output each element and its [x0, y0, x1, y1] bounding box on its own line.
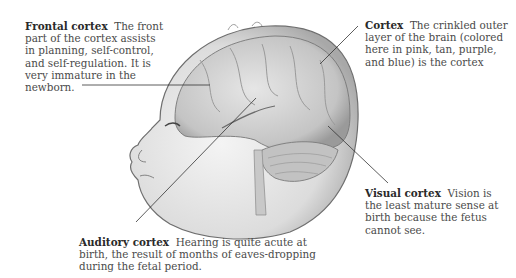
cortex-label: Cortex The crinkled outer layer of the b…	[365, 19, 515, 68]
auditory-cortex-title: Auditory cortex	[79, 236, 169, 248]
visual-cortex-label: Visual cortex Vision is the least mature…	[365, 187, 505, 236]
frontal-cortex-title: Frontal cortex	[25, 20, 108, 32]
auditory-cortex-label: Auditory cortex Hearing is quite acute a…	[79, 236, 319, 273]
visual-cortex-title: Visual cortex	[365, 187, 441, 199]
frontal-cortex-label: Frontal cortex The front part of the cor…	[25, 20, 165, 93]
cortex-title: Cortex	[365, 19, 403, 31]
